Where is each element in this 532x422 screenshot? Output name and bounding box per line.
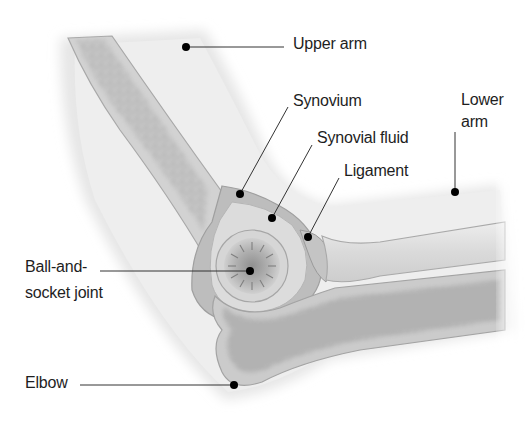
elbow-dot — [230, 381, 238, 389]
elbow-illustration — [0, 0, 532, 422]
label-synovium: Synovium — [293, 90, 362, 112]
label-ball-socket-line2: socket joint — [25, 280, 103, 306]
upper-arm-dot — [182, 43, 190, 51]
elbow-diagram: Upper arm Synovium Synovial fluid Ligame… — [0, 0, 532, 422]
ball-socket-dot — [246, 267, 254, 275]
label-elbow: Elbow — [25, 372, 68, 394]
label-lower-arm-line1: Lower — [461, 89, 504, 111]
label-ball-socket-line1: Ball-and- — [25, 254, 103, 280]
ligament-dot — [304, 233, 312, 241]
label-synovial-fluid: Synovial fluid — [317, 127, 408, 149]
ball-joint — [216, 230, 288, 302]
synovium-dot — [236, 190, 244, 198]
label-lower-arm: Lower arm — [461, 89, 504, 133]
synovial-fluid-dot — [268, 214, 276, 222]
label-ligament: Ligament — [344, 160, 408, 182]
label-ball-and-socket-joint: Ball-and- socket joint — [25, 254, 103, 306]
lower-arm-dot — [451, 188, 459, 196]
label-lower-arm-line2: arm — [461, 111, 504, 133]
label-upper-arm: Upper arm — [293, 33, 367, 55]
